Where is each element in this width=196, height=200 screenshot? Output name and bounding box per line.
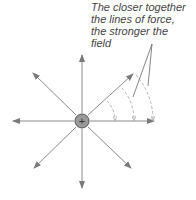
dashed-arcs [107, 75, 153, 120]
positive-charge: + [75, 114, 89, 128]
plus-icon: + [79, 115, 85, 127]
arrow-up-left-icon [33, 73, 76, 115]
arrow-down-left-icon [34, 127, 76, 168]
arrow-down-right-icon [88, 127, 131, 168]
field-lines-diagram: + [0, 0, 196, 200]
pointer-lines [133, 44, 152, 97]
arrow-up-right-icon [88, 74, 133, 115]
